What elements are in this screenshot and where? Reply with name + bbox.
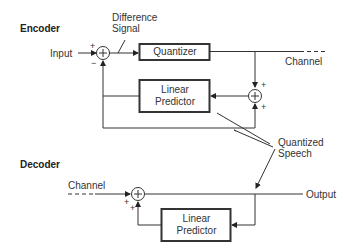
- decoder-predictor-label-line2: Predictor: [162, 225, 231, 237]
- quantized-speech-pointer-1: [234, 130, 273, 147]
- encoder-title: Encoder: [20, 23, 60, 34]
- quantizer-label: Quantizer: [140, 46, 210, 58]
- encoder-predictor-label-line2: Predictor: [140, 96, 210, 108]
- encoder-channel-label: Channel: [285, 56, 322, 67]
- quantized-speech-label-line1: Quantized: [278, 137, 324, 148]
- decoder-predictor-label-line1: Linear: [162, 213, 231, 225]
- decoder-summer-plus-1: +: [124, 198, 129, 207]
- difference-signal-pointer: [118, 40, 125, 53]
- output-label: Output: [306, 189, 336, 200]
- summer1-plus-sign: +: [90, 42, 95, 51]
- difference-signal-label-line2: Signal: [112, 23, 140, 34]
- summer1-minus-sign: −: [91, 59, 96, 68]
- summer2-plus-top: +: [261, 81, 266, 90]
- decoder-channel-label: Channel: [68, 180, 105, 191]
- diagram-canvas: [0, 0, 345, 248]
- decoder-title: Decoder: [20, 159, 60, 170]
- difference-signal-label-line1: Difference: [112, 12, 157, 23]
- quantized-speech-pointer-2: [256, 149, 275, 188]
- decoder-summer-plus-2: +: [130, 204, 135, 213]
- input-label: Input: [50, 48, 72, 59]
- encoder-predictor-label-line1: Linear: [140, 84, 210, 96]
- summer2-plus-bottom: +: [261, 103, 266, 112]
- quantized-speech-label-line2: Speech: [278, 148, 312, 159]
